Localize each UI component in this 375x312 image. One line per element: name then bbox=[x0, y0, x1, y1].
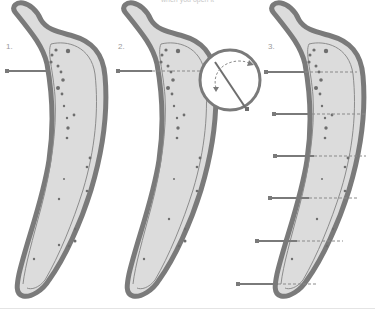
banana-diagram bbox=[0, 0, 375, 312]
banana-1 bbox=[14, 3, 106, 296]
banana-2 bbox=[124, 3, 216, 296]
banana-3 bbox=[272, 3, 364, 296]
pin-1 bbox=[5, 69, 47, 73]
bottom-rule bbox=[0, 308, 375, 309]
magnifier-inset bbox=[200, 50, 260, 111]
